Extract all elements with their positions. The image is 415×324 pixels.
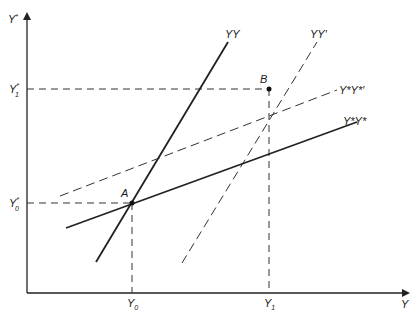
x-axis-label: Y [401, 298, 409, 310]
curve-label-YY-prime: YY′ [310, 28, 328, 40]
curve-label-YsYs: Y*Y* [343, 115, 367, 127]
curve-YY [96, 42, 228, 262]
curve-label-YsYs-prime: Y*Y*′ [339, 84, 365, 96]
point-B [267, 87, 272, 92]
curve-YY-prime [182, 42, 317, 263]
diagram-canvas: Y* Y Y*1 Y*0 Y0 Y1 YY YY′ Y*Y*′ Y*Y* A B [0, 0, 415, 324]
point-label-B: B [260, 73, 267, 85]
x-tick-Y0: Y0 [127, 297, 138, 311]
curve-label-YY: YY [225, 28, 240, 40]
point-A [130, 201, 135, 206]
y-axis-label: Y* [8, 13, 18, 25]
y-tick-Y0-star: Y*0 [9, 196, 19, 212]
y-tick-Y1-star: Y*1 [9, 82, 19, 98]
point-label-A: A [120, 187, 128, 199]
x-tick-Y1: Y1 [264, 297, 275, 311]
